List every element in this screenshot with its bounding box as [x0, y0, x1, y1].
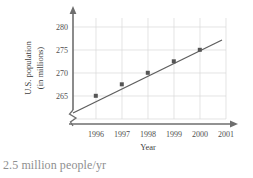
y-tick-labels: 280 275 270 265 — [56, 23, 68, 101]
data-point-1998 — [146, 71, 150, 75]
y-axis-title-line2: (in millions) — [35, 47, 45, 89]
y-tick-label: 270 — [56, 69, 68, 78]
data-point-2000 — [198, 48, 202, 52]
x-tick-label: 2000 — [192, 130, 208, 139]
x-tick-label: 2001 — [218, 130, 234, 139]
x-tick-label: 1999 — [166, 130, 182, 139]
x-axis — [69, 121, 238, 128]
x-tick-labels: 1996 1997 1998 1999 2000 2001 — [88, 130, 234, 139]
x-axis-title: Year — [140, 142, 156, 152]
y-axis — [70, 6, 77, 126]
x-axis-arrowhead — [230, 121, 238, 128]
y-axis-arrowhead — [70, 6, 77, 14]
y-tick-label: 275 — [56, 46, 68, 55]
x-tick-label: 1997 — [114, 130, 130, 139]
y-tick-label: 280 — [56, 23, 68, 32]
y-axis-title-line1: U.S. population — [23, 40, 33, 94]
population-growth-figure: 280 275 270 265 1996 1997 1998 1999 2000… — [0, 0, 253, 178]
x-tick-label: 1996 — [88, 130, 104, 139]
line-chart: 280 275 270 265 1996 1997 1998 1999 2000… — [0, 0, 253, 152]
y-tick-label: 265 — [56, 92, 68, 101]
data-point-1999 — [172, 59, 176, 63]
x-tick-label: 1998 — [140, 130, 156, 139]
vertical-gridlines — [96, 18, 226, 119]
data-point-1996 — [94, 94, 98, 98]
data-point-1997 — [120, 82, 124, 86]
rate-of-change-caption: 2.5 million people/yr — [3, 158, 106, 173]
